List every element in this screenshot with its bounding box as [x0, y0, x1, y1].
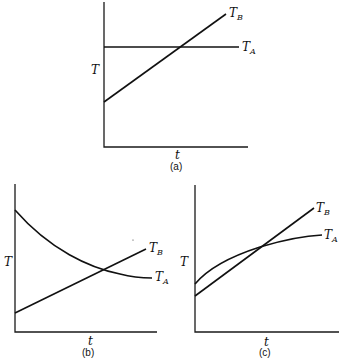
figure: T t (a) TB TA T t (b) TB TA T t (c) TB T…	[0, 0, 341, 361]
y-label-a: T	[91, 63, 100, 77]
y-label-c: T	[180, 255, 189, 269]
panel-b: T t (b) TB TA	[4, 184, 169, 358]
label-c-TA: TA	[324, 228, 338, 244]
axes-a	[104, 2, 248, 147]
label-c-TB: TB	[316, 201, 330, 217]
speck	[132, 239, 133, 240]
curve-c-TB	[195, 208, 314, 296]
caption-a: (a)	[170, 161, 182, 172]
curve-b-TA	[15, 210, 152, 278]
label-b-TA: TA	[155, 270, 169, 286]
label-b-TB: TB	[149, 241, 163, 257]
caption-c: (c)	[259, 347, 271, 358]
y-label-b: T	[4, 255, 13, 269]
label-a-TB: TB	[229, 6, 243, 22]
caption-b: (b)	[82, 347, 94, 358]
panel-a: T t (a) TB TA	[91, 2, 256, 172]
x-label-a: t	[175, 148, 180, 162]
x-label-b: t	[88, 334, 93, 348]
axes-b	[15, 184, 157, 332]
curve-b-TB	[15, 249, 146, 313]
label-a-TA: TA	[242, 40, 256, 56]
curve-a-TB	[104, 14, 226, 102]
curve-c-TA	[195, 235, 322, 284]
panel-c: T t (c) TB TA	[180, 185, 339, 358]
